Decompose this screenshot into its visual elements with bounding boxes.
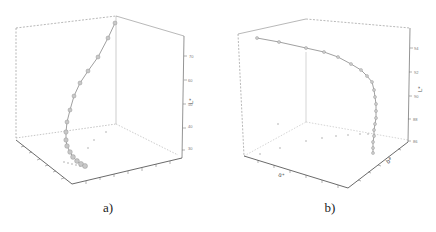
caption-a: a)	[88, 200, 128, 216]
svg-text:86: 86	[413, 139, 418, 144]
svg-text:88: 88	[413, 117, 418, 122]
svg-text:94: 94	[414, 46, 419, 51]
data-points-b	[256, 37, 378, 155]
caption-b: b)	[310, 200, 350, 216]
data-points-a	[64, 21, 117, 169]
svg-text:92: 92	[414, 70, 419, 75]
svg-text:90: 90	[414, 94, 419, 99]
plot-a: 30 40 50 60 70 L*	[0, 0, 218, 232]
svg-text:L*: L*	[417, 86, 423, 92]
plot-b: 94 92 90 88 86 L* a* b*	[218, 0, 436, 232]
svg-text:L*: L*	[188, 98, 194, 104]
svg-text:b*: b*	[385, 156, 394, 165]
svg-text:60: 60	[188, 78, 193, 83]
svg-text:40: 40	[188, 124, 193, 129]
svg-text:30: 30	[188, 146, 193, 151]
panel-b: 94 92 90 88 86 L* a* b*	[218, 0, 436, 232]
svg-text:70: 70	[189, 54, 194, 59]
z-axis-ticks-b: 94 92 90 88 86 L*	[408, 46, 423, 144]
z-axis-ticks-a: 30 40 50 60 70 L*	[182, 54, 194, 151]
panel-a: 30 40 50 60 70 L*	[0, 0, 218, 232]
svg-text:a*: a*	[278, 171, 286, 179]
